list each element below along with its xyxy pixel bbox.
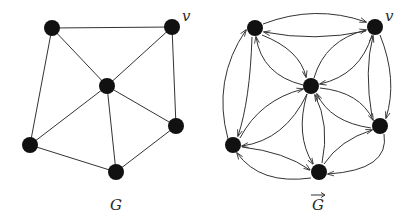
- arc: [328, 134, 385, 174]
- arc: [380, 35, 391, 118]
- vertex-node-v: [164, 19, 180, 35]
- vertex-node: [247, 20, 263, 36]
- edge: [116, 126, 176, 172]
- edge: [172, 27, 176, 126]
- edge: [107, 27, 172, 86]
- edge: [30, 28, 52, 145]
- arc: [320, 35, 372, 84]
- vertex-node: [168, 118, 184, 134]
- arc: [317, 94, 371, 128]
- vertex-label-v: v: [182, 7, 191, 25]
- edge: [107, 86, 116, 172]
- vertex-node: [311, 164, 327, 180]
- vertex-node: [225, 137, 241, 153]
- vertex-node: [303, 78, 319, 94]
- edge: [52, 27, 172, 28]
- arc: [314, 30, 366, 78]
- graph-figure: v G: [0, 0, 415, 218]
- vertex-node: [44, 20, 60, 36]
- arc: [238, 37, 252, 136]
- arc: [324, 130, 372, 164]
- arc: [302, 94, 313, 164]
- vertex-label-v: v: [385, 7, 394, 25]
- arc: [240, 89, 303, 138]
- arc: [263, 13, 366, 24]
- arc: [256, 37, 303, 85]
- edge: [30, 86, 107, 145]
- edge: [107, 86, 176, 126]
- vertices-directed: [225, 19, 388, 180]
- vertex-node: [99, 78, 115, 94]
- vertex-node: [372, 118, 388, 134]
- arc: [223, 30, 246, 139]
- arc: [237, 153, 311, 179]
- graph-label-g: G: [110, 196, 122, 214]
- arc: [264, 31, 366, 37]
- arc: [242, 147, 310, 170]
- vertex-node: [22, 137, 38, 153]
- arc: [368, 36, 373, 117]
- undirected-graph-g: [30, 27, 176, 172]
- vertex-node: [108, 164, 124, 180]
- edge: [52, 28, 107, 86]
- arc: [320, 88, 373, 120]
- edge: [30, 145, 116, 172]
- arc: [315, 95, 325, 163]
- arc: [262, 35, 306, 77]
- vertex-node-v: [367, 19, 383, 35]
- graph-label-g-directed: G: [312, 196, 324, 214]
- vertices-g: [22, 19, 184, 180]
- directed-graph-g: [223, 13, 391, 179]
